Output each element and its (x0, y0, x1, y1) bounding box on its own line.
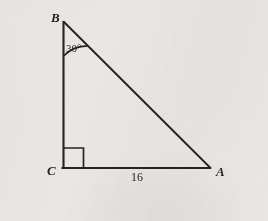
vertex-label-c: C (47, 164, 56, 177)
segment-ba (64, 22, 211, 168)
vertex-label-b: B (51, 11, 60, 24)
geometry-figure: B C A 30° 16 (0, 0, 268, 221)
side-length-label-ca: 16 (131, 171, 143, 183)
angle-measure-label-b: 30° (66, 43, 81, 54)
right-angle-marker (64, 148, 84, 168)
triangle-diagram (0, 0, 268, 221)
vertex-label-a: A (216, 165, 225, 178)
